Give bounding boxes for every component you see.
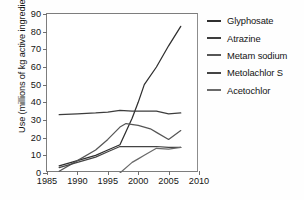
- x-axis-tick-label: 2000: [128, 176, 148, 186]
- legend-swatch-icon: [207, 89, 221, 91]
- legend-swatch-icon: [207, 20, 221, 22]
- x-axis-tick: [199, 171, 200, 175]
- y-axis-tick-label: 50: [31, 80, 41, 90]
- x-axis-tick-label: 2005: [158, 176, 178, 186]
- legend-item-glyphosate[interactable]: Glyphosate: [207, 12, 303, 29]
- legend-item-label: Acetochlor: [227, 85, 270, 96]
- y-axis-tick-label: 10: [31, 150, 41, 160]
- x-axis-tick: [108, 171, 109, 175]
- y-axis-tick-label: 40: [31, 97, 41, 107]
- y-axis-tick-label: 90: [31, 9, 41, 19]
- y-axis-tick: [43, 85, 47, 86]
- legend-swatch-icon: [207, 37, 221, 39]
- legend-swatch-icon: [207, 54, 221, 56]
- y-axis-tick: [43, 49, 47, 50]
- plot-area: 0102030405060708090198519901995200020052…: [46, 13, 198, 172]
- legend-item-metolachlor-s[interactable]: Metolachlor S: [207, 64, 303, 81]
- legend-item-label: Glyphosate: [227, 15, 273, 26]
- y-axis-tick: [43, 32, 47, 33]
- y-axis-tick: [43, 14, 47, 15]
- legend-item-label: Metam sodium: [227, 50, 287, 61]
- y-axis-tick-label: 20: [31, 133, 41, 143]
- legend-item-acetochlor[interactable]: Acetochlor: [207, 82, 303, 99]
- x-axis-tick: [138, 171, 139, 175]
- y-axis-tick: [43, 102, 47, 103]
- y-axis-label: Use (millions of kg active ingredient): [15, 0, 29, 141]
- y-axis-tick-label: 60: [31, 62, 41, 72]
- series-line-metolachlor-s: [59, 147, 181, 168]
- x-axis-tick: [47, 171, 48, 175]
- x-axis-tick-label: 1995: [98, 176, 118, 186]
- x-axis-tick: [77, 171, 78, 175]
- series-line-acetochlor: [120, 147, 181, 173]
- y-axis-label-container: Use (millions of kg active ingredient): [15, 0, 29, 141]
- x-axis-tick: [169, 171, 170, 175]
- series-lines: [47, 14, 199, 173]
- x-axis-tick-label: 1985: [37, 176, 57, 186]
- y-axis-tick: [43, 138, 47, 139]
- chart-legend: GlyphosateAtrazineMetam sodiumMetolachlo…: [207, 12, 303, 99]
- series-line-atrazine: [59, 110, 181, 114]
- series-line-glyphosate: [59, 26, 181, 166]
- y-axis-tick: [43, 155, 47, 156]
- y-axis-tick: [43, 67, 47, 68]
- y-axis-tick-label: 70: [31, 44, 41, 54]
- legend-swatch-icon: [207, 72, 221, 74]
- legend-item-label: Metolachlor S: [227, 67, 283, 78]
- y-axis-tick-label: 30: [31, 115, 41, 125]
- x-axis-tick-label: 1990: [67, 176, 87, 186]
- chart-figure: Use (millions of kg active ingredient) 0…: [0, 0, 304, 200]
- legend-item-label: Atrazine: [227, 33, 261, 44]
- y-axis-tick-label: 80: [31, 27, 41, 37]
- x-axis-tick-label: 2010: [189, 176, 209, 186]
- y-axis-tick: [43, 120, 47, 121]
- legend-item-metam-sodium[interactable]: Metam sodium: [207, 47, 303, 64]
- legend-item-atrazine[interactable]: Atrazine: [207, 29, 303, 46]
